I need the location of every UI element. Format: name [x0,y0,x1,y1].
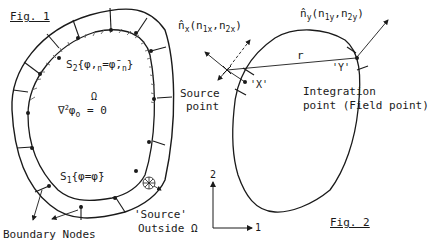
source-outside-label-1: 'Source' [134,209,187,220]
omega-label: Ω [91,92,97,102]
axis-2-label: 2 [210,170,216,180]
r-label: r [297,50,304,61]
coordinate-axes [213,182,252,228]
x-node-label: 'X' [250,80,268,90]
integration-point-label-2: point (Field point) [303,100,429,111]
s2-label: S2{φ,n=φ̄,n} [66,59,133,70]
laplace-equation: ∇2φo = 0 [58,105,107,116]
fig1-title: Fig. 1 [10,11,50,22]
s1-label: S1{φ=φ̄} [60,171,105,182]
diagram-drawing [0,0,429,243]
nx-label: n̂x(n1x,n2x) [178,20,242,31]
boundary-nodes-label: Boundary Nodes [3,229,96,240]
node-x [243,80,247,84]
source-outside-label-2: Outside Ω [138,223,198,234]
source-point-label-1: Source [180,88,220,99]
y-node-label: 'Y' [332,63,350,73]
source-point-label-2: point [186,101,219,112]
ny-label: n̂y(n1y,n2y) [300,8,364,19]
integration-point-label-1: Integration [303,86,376,97]
axis-1-label: 1 [255,223,261,233]
diagram-canvas: Fig. 1 S2{φ,n=φ̄,n} Ω ∇2φo = 0 S1{φ=φ̄} … [0,0,429,243]
fig2-title: Fig. 2 [330,217,370,228]
source-outside-symbol [143,177,161,190]
